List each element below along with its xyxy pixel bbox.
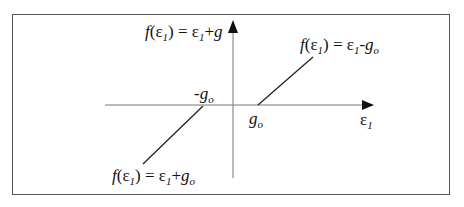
pos-go-tick-label: go: [249, 110, 263, 127]
x-axis-label: ε1: [360, 111, 373, 128]
y-axis-arrow-icon: [228, 20, 238, 33]
y-axis-label: f(ε1) = ε1+g: [145, 23, 223, 40]
upper-segment-label: f(ε1) = ε1-go: [300, 36, 379, 53]
lower-segment: [143, 106, 203, 164]
plot-area: [0, 0, 464, 207]
neg-go-tick-label: -go: [194, 85, 214, 102]
upper-segment: [258, 57, 313, 105]
x-axis-arrow-icon: [362, 100, 374, 110]
lower-segment-label: f(ε1) = ε1+go: [112, 167, 195, 184]
